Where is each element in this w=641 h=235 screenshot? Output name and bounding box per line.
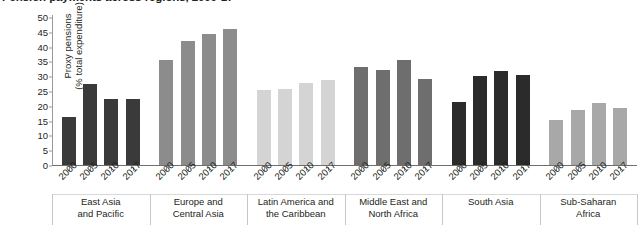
y-axis-tick-label: 30: [37, 72, 48, 82]
bar: [354, 67, 368, 165]
bar: [202, 34, 216, 165]
region-separator: [442, 194, 443, 225]
region-label: East Asiaand Pacific: [52, 196, 150, 219]
y-axis-tick-mark: [49, 151, 53, 152]
x-axis-year-label: 2010: [99, 160, 121, 182]
y-axis-tick-label: 25: [37, 87, 48, 97]
y-axis-tick-label: 0: [43, 161, 48, 171]
y-axis-tick-mark: [49, 32, 53, 33]
y-axis-tick-mark: [49, 121, 53, 122]
bar: [549, 120, 563, 165]
region-separator: [345, 194, 346, 225]
region-label: Sub-SaharanAfrica: [540, 196, 638, 219]
x-axis-year-label: 2017: [511, 160, 533, 182]
region-label: South Asia: [442, 196, 540, 208]
bar: [613, 108, 627, 165]
bar: [452, 102, 466, 165]
x-axis-year-label: 2010: [197, 160, 219, 182]
bar: [83, 84, 97, 165]
x-axis-year-label: 2010: [587, 160, 609, 182]
bar: [257, 90, 271, 165]
y-axis-line: [52, 15, 53, 166]
bar: [321, 80, 335, 165]
bar: [473, 76, 487, 165]
bar: [494, 71, 508, 165]
x-axis-year-label: 2010: [392, 160, 414, 182]
y-axis-tick-label: 10: [37, 132, 48, 142]
x-axis-year-label: 2000: [349, 160, 371, 182]
x-axis-year-label: 2017: [121, 160, 143, 182]
region-label: Europe andCentral Asia: [150, 196, 248, 219]
region-label-line-1: Latin America and: [247, 196, 345, 208]
region-label-line-1: East Asia: [52, 196, 150, 208]
region-label-line-2: North Africa: [345, 208, 443, 220]
region-label-line-1: Sub-Saharan: [540, 196, 638, 208]
region-label-line-1: Europe and: [150, 196, 248, 208]
region-label-line-2: Central Asia: [150, 208, 248, 220]
bar: [571, 110, 585, 165]
bar: [104, 99, 118, 165]
y-axis-tick-mark: [49, 18, 53, 19]
x-axis-year-label: 2017: [316, 160, 338, 182]
bar: [376, 70, 390, 165]
region-separator: [637, 194, 638, 225]
bar: [223, 29, 237, 165]
y-axis-tick-label: 15: [37, 117, 48, 127]
plot-area: Proxy pensions (% total expenditure) 051…: [52, 18, 637, 166]
bar: [159, 60, 173, 165]
x-axis-year-label: 2010: [489, 160, 511, 182]
x-axis-year-label: 2017: [413, 160, 435, 182]
y-axis-tick-label: 40: [37, 43, 48, 53]
y-axis-tick-mark: [49, 106, 53, 107]
bar: [516, 75, 530, 165]
y-axis-tick-label: 50: [37, 13, 48, 23]
y-axis-tick-label: 5: [43, 146, 48, 156]
region-separator: [540, 194, 541, 225]
x-axis-year-label: 2005: [273, 160, 295, 182]
region-label-line-2: the Caribbean: [247, 208, 345, 220]
bar: [62, 117, 76, 165]
region-separator: [150, 194, 151, 225]
x-axis-year-label: 2000: [252, 160, 274, 182]
y-axis-tick-label: 35: [37, 58, 48, 68]
y-axis-title-line-1: Proxy pensions: [62, 14, 73, 79]
x-axis-year-label: 2005: [565, 160, 587, 182]
bar: [592, 103, 606, 165]
region-label-line-2: and Pacific: [52, 208, 150, 220]
region-separator: [52, 194, 53, 225]
y-axis-tick-mark: [49, 62, 53, 63]
y-axis-tick-label: 20: [37, 102, 48, 112]
x-axis-year-label: 2000: [447, 160, 469, 182]
y-axis-tick-mark: [49, 92, 53, 93]
region-separator: [247, 194, 248, 225]
chart-title: Pension payments across regions, 2000-17: [2, 0, 233, 3]
bar: [126, 99, 140, 165]
y-axis-tick-mark: [49, 47, 53, 48]
x-axis-year-label: 2000: [154, 160, 176, 182]
region-label-line-2: Africa: [540, 208, 638, 220]
x-axis-year-label: 2010: [294, 160, 316, 182]
bar: [418, 79, 432, 165]
region-label-line-1: South Asia: [442, 196, 540, 208]
x-axis-year-label: 2000: [544, 160, 566, 182]
region-label-band: East Asiaand PacificEurope andCentral As…: [52, 196, 637, 228]
bar: [397, 60, 411, 165]
y-axis-tick-mark: [49, 166, 53, 167]
region-label-line-1: Middle East and: [345, 196, 443, 208]
y-axis-tick-mark: [49, 77, 53, 78]
y-axis-title-line-2: (% total expenditure): [73, 2, 84, 90]
x-axis-year-label: 2005: [468, 160, 490, 182]
x-axis-year-label: 2000: [57, 160, 79, 182]
x-axis-year-label: 2005: [78, 160, 100, 182]
bar: [278, 89, 292, 165]
region-label: Middle East andNorth Africa: [345, 196, 443, 219]
x-axis-year-label: 2017: [608, 160, 630, 182]
y-axis-tick-mark: [49, 136, 53, 137]
x-axis-year-label: 2005: [370, 160, 392, 182]
bar: [299, 83, 313, 165]
x-axis-year-label: 2005: [175, 160, 197, 182]
region-label: Latin America andthe Caribbean: [247, 196, 345, 219]
bar: [181, 41, 195, 165]
x-axis-year-label: 2017: [218, 160, 240, 182]
y-axis-tick-label: 45: [37, 28, 48, 38]
